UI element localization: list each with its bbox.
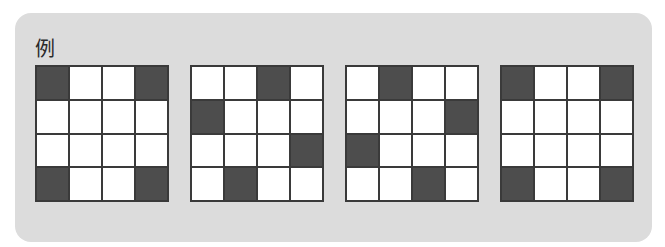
empty-cell <box>347 101 378 133</box>
filled-cell <box>502 168 533 200</box>
empty-cell <box>192 67 223 99</box>
filled-cell <box>37 67 68 99</box>
filled-cell <box>136 67 167 99</box>
empty-cell <box>136 101 167 133</box>
empty-cell <box>103 135 134 167</box>
grid-3 <box>345 65 479 202</box>
empty-cell <box>446 168 477 200</box>
filled-cell <box>413 168 444 200</box>
empty-cell <box>502 135 533 167</box>
empty-cell <box>568 101 599 133</box>
empty-cell <box>568 168 599 200</box>
empty-cell <box>192 168 223 200</box>
filled-cell <box>136 168 167 200</box>
filled-cell <box>192 101 223 133</box>
empty-cell <box>258 101 289 133</box>
empty-cell <box>70 101 101 133</box>
empty-cell <box>70 67 101 99</box>
empty-cell <box>225 135 256 167</box>
empty-cell <box>347 67 378 99</box>
empty-cell <box>380 101 411 133</box>
empty-cell <box>568 135 599 167</box>
empty-cell <box>225 67 256 99</box>
empty-cell <box>535 135 566 167</box>
empty-cell <box>413 67 444 99</box>
empty-cell <box>103 101 134 133</box>
empty-cell <box>225 101 256 133</box>
filled-cell <box>446 101 477 133</box>
filled-cell <box>601 168 632 200</box>
example-label: 例 <box>35 38 55 60</box>
empty-cell <box>535 67 566 99</box>
filled-cell <box>258 67 289 99</box>
empty-cell <box>380 135 411 167</box>
filled-cell <box>601 67 632 99</box>
filled-cell <box>502 67 533 99</box>
empty-cell <box>258 135 289 167</box>
empty-cell <box>535 101 566 133</box>
grid-2 <box>190 65 324 202</box>
empty-cell <box>413 135 444 167</box>
filled-cell <box>380 67 411 99</box>
empty-cell <box>380 168 411 200</box>
empty-cell <box>347 168 378 200</box>
empty-cell <box>446 135 477 167</box>
empty-cell <box>291 101 322 133</box>
empty-cell <box>70 135 101 167</box>
empty-cell <box>601 101 632 133</box>
empty-cell <box>258 168 289 200</box>
filled-cell <box>37 168 68 200</box>
filled-cell <box>347 135 378 167</box>
empty-cell <box>103 67 134 99</box>
grid-4 <box>500 65 634 202</box>
empty-cell <box>291 67 322 99</box>
empty-cell <box>37 101 68 133</box>
empty-cell <box>136 135 167 167</box>
empty-cell <box>446 67 477 99</box>
empty-cell <box>502 101 533 133</box>
empty-cell <box>70 168 101 200</box>
empty-cell <box>291 168 322 200</box>
filled-cell <box>291 135 322 167</box>
empty-cell <box>413 101 444 133</box>
grid-1 <box>35 65 169 202</box>
empty-cell <box>601 135 632 167</box>
empty-cell <box>535 168 566 200</box>
empty-cell <box>37 135 68 167</box>
filled-cell <box>225 168 256 200</box>
empty-cell <box>192 135 223 167</box>
empty-cell <box>103 168 134 200</box>
empty-cell <box>568 67 599 99</box>
